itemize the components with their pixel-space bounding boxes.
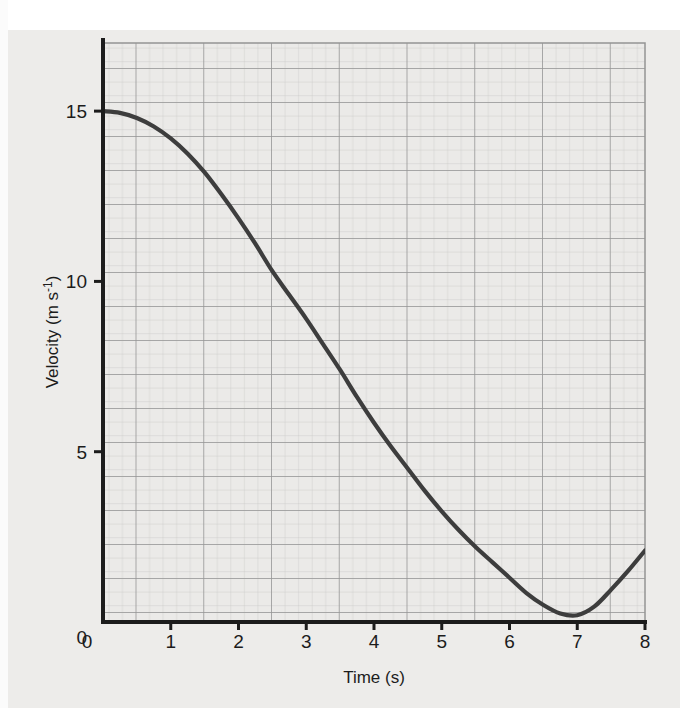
y-axis-tick-labels: 051015 bbox=[66, 101, 87, 648]
x-tick-label: 1 bbox=[165, 631, 176, 652]
y-axis-title: Velocity (m s-1) bbox=[41, 276, 62, 389]
plot-grid bbox=[103, 43, 645, 622]
x-axis-title: Time (s) bbox=[343, 668, 405, 687]
page-bleed-text bbox=[0, 688, 680, 708]
x-tick-label: 6 bbox=[504, 631, 515, 652]
y-tick-label: 5 bbox=[76, 442, 87, 463]
x-tick-label: 3 bbox=[301, 631, 312, 652]
svg-text:Velocity (m s-1): Velocity (m s-1) bbox=[41, 276, 62, 389]
y-tick-label: 15 bbox=[66, 101, 87, 122]
x-tick-label: 8 bbox=[640, 631, 651, 652]
y-tick-label: 10 bbox=[66, 271, 87, 292]
velocity-time-graph-figure: 012345678 051015 Time (s) Velocity (m s-… bbox=[0, 0, 680, 708]
y-axis-title-superscript: -1 bbox=[41, 281, 55, 292]
graph-svg: 012345678 051015 Time (s) Velocity (m s-… bbox=[0, 0, 680, 708]
y-axis-title-main: Velocity (m s bbox=[43, 292, 62, 388]
x-tick-label: 5 bbox=[436, 631, 447, 652]
x-tick-label: 4 bbox=[369, 631, 380, 652]
x-tick-label: 7 bbox=[572, 631, 583, 652]
y-axis-title-close: ) bbox=[43, 276, 62, 282]
y-tick-label: 0 bbox=[76, 627, 87, 648]
x-tick-label: 2 bbox=[233, 631, 244, 652]
x-axis-tick-labels: 012345678 bbox=[82, 631, 651, 652]
